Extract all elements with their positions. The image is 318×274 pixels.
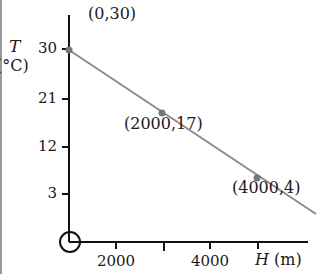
x-ticks bbox=[116, 242, 258, 251]
y-tick-label-30: 30 bbox=[27, 41, 57, 56]
annotation-point-2: (4000,4) bbox=[232, 180, 300, 196]
x-axis-unit: (m) bbox=[274, 250, 302, 269]
annotation-point-0: (0,30) bbox=[88, 6, 136, 22]
x-axis-symbol: H bbox=[255, 250, 269, 269]
x-axis-title: H (m) bbox=[255, 252, 302, 268]
y-tick-label-12: 12 bbox=[27, 139, 57, 154]
y-axis-symbol: T bbox=[9, 38, 20, 54]
y-axis-unit: (°C) bbox=[0, 58, 29, 74]
annotation-point-1: (2000,17) bbox=[124, 116, 203, 132]
y-ticks bbox=[62, 49, 69, 194]
y-tick-label-3: 3 bbox=[27, 186, 57, 201]
x-tick-label-4000: 4000 bbox=[185, 254, 235, 269]
y-tick-label-21: 21 bbox=[27, 91, 57, 106]
data-point-0 bbox=[66, 47, 73, 54]
x-tick-label-2000: 2000 bbox=[91, 254, 141, 269]
